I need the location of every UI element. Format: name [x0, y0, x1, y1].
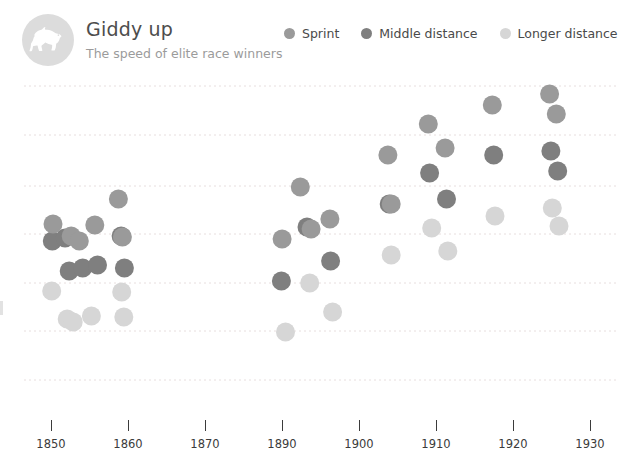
x-axis-tick-label: 1850 [36, 437, 65, 451]
data-point[interactable] [323, 303, 342, 322]
x-axis-tick-label: 1930 [575, 437, 604, 451]
data-point[interactable] [437, 190, 456, 209]
legend-label: Sprint [302, 26, 339, 41]
data-point[interactable] [382, 246, 401, 265]
data-point[interactable] [438, 242, 457, 261]
x-axis-tick-label: 1910 [421, 437, 450, 451]
plot-canvas [0, 76, 619, 406]
x-axis-tick [590, 420, 591, 431]
data-point[interactable] [113, 228, 132, 247]
legend-label: Longer distance [518, 26, 618, 41]
data-point[interactable] [541, 142, 560, 161]
legend-swatch-icon [500, 28, 511, 39]
data-point[interactable] [273, 230, 292, 249]
horse-icon [28, 25, 68, 55]
data-point[interactable] [378, 146, 397, 165]
legend-label: Middle distance [379, 26, 477, 41]
data-point[interactable] [115, 259, 134, 278]
data-point[interactable] [436, 139, 455, 158]
x-axis: 18501860187018901900191019201930 [0, 406, 619, 454]
legend-item-middle-distance[interactable]: Middle distance [361, 26, 477, 41]
data-point[interactable] [550, 217, 569, 236]
x-axis-tick [436, 420, 437, 431]
x-axis-tick [282, 420, 283, 431]
data-point[interactable] [44, 215, 63, 234]
series-sprint [44, 85, 566, 251]
data-point[interactable] [302, 220, 321, 239]
data-point[interactable] [320, 210, 339, 229]
page-title: Giddy up [86, 18, 282, 40]
chart-legend: Sprint Middle distance Longer distance [284, 26, 618, 41]
x-axis-tick-label: 1920 [498, 437, 527, 451]
data-point[interactable] [64, 313, 83, 332]
x-axis-tick-label: 1890 [267, 437, 296, 451]
legend-item-sprint[interactable]: Sprint [284, 26, 339, 41]
data-point[interactable] [382, 195, 401, 214]
title-block: Giddy up The speed of elite race winners [86, 18, 282, 62]
x-axis-tick [513, 420, 514, 431]
x-axis-tick [51, 420, 52, 431]
page-subtitle: The speed of elite race winners [86, 46, 282, 62]
x-axis-tick-label: 1900 [344, 437, 373, 451]
x-axis-tick-label: 1860 [113, 437, 142, 451]
data-point[interactable] [420, 164, 439, 183]
data-point[interactable] [483, 96, 502, 115]
data-point[interactable] [484, 146, 503, 165]
x-axis-tick-label: 1870 [190, 437, 219, 451]
data-point[interactable] [486, 207, 505, 226]
data-point[interactable] [272, 272, 291, 291]
data-point[interactable] [548, 162, 567, 181]
data-point[interactable] [321, 252, 340, 271]
chart-page: Giddy up The speed of elite race winners… [0, 0, 619, 454]
legend-swatch-icon [361, 28, 372, 39]
data-point[interactable] [109, 190, 128, 209]
chart-header: Giddy up The speed of elite race winners… [0, 0, 619, 76]
x-axis-tick [205, 420, 206, 431]
data-point[interactable] [85, 216, 104, 235]
plot-edge-marker [0, 301, 3, 315]
data-point[interactable] [112, 283, 131, 302]
data-point[interactable] [114, 308, 133, 327]
x-axis-tick [359, 420, 360, 431]
data-point[interactable] [419, 115, 438, 134]
data-point[interactable] [276, 323, 295, 342]
data-point[interactable] [88, 256, 107, 275]
data-point[interactable] [300, 274, 319, 293]
data-point[interactable] [291, 178, 310, 197]
x-axis-tick [128, 420, 129, 431]
data-point[interactable] [82, 307, 101, 326]
logo-badge [22, 14, 74, 66]
data-point[interactable] [547, 105, 566, 124]
data-point[interactable] [543, 199, 562, 218]
data-point[interactable] [42, 282, 61, 301]
legend-item-longer-distance[interactable]: Longer distance [500, 26, 618, 41]
data-point[interactable] [70, 232, 89, 251]
data-point[interactable] [422, 219, 441, 238]
data-point[interactable] [540, 85, 559, 104]
legend-swatch-icon [284, 28, 295, 39]
scatter-plot [0, 76, 619, 406]
